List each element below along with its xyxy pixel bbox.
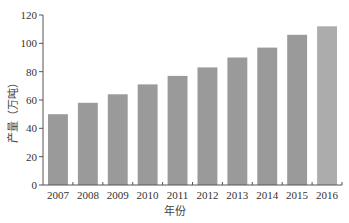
x-tick-label: 2009	[107, 189, 130, 201]
y-tick-label: 60	[26, 94, 38, 106]
x-axis: 2007200820092010201120122013201420152016	[43, 182, 342, 201]
y-tick-label: 120	[21, 9, 38, 21]
x-tick-label: 2016	[316, 189, 339, 201]
bar-2012	[198, 67, 218, 185]
bar-2014	[257, 48, 277, 185]
bar-2007	[48, 114, 68, 185]
y-tick-label: 20	[26, 151, 38, 163]
x-tick-label: 2008	[77, 189, 100, 201]
bar-2011	[168, 76, 188, 185]
bar-2016	[317, 26, 337, 185]
x-tick-label: 2013	[226, 189, 249, 201]
x-axis-title: 年份	[164, 204, 186, 218]
x-tick-label: 2014	[256, 189, 279, 201]
bar-2010	[138, 84, 158, 185]
x-tick-label: 2012	[196, 189, 218, 201]
y-axis: 020406080100120	[21, 9, 44, 191]
x-tick-label: 2010	[137, 189, 160, 201]
bars-group	[48, 26, 337, 185]
y-axis-title: 产量（万吨）	[6, 77, 20, 143]
bar-2015	[287, 35, 307, 185]
x-tick-label: 2007	[47, 189, 70, 201]
bar-chart: 020406080100120 200720082009201020112012…	[0, 0, 349, 223]
x-tick-label: 2015	[286, 189, 309, 201]
bar-2008	[78, 103, 98, 185]
bar-2009	[108, 94, 128, 185]
bar-2013	[227, 58, 247, 186]
y-tick-label: 0	[32, 179, 38, 191]
x-tick-label: 2011	[167, 189, 189, 201]
y-tick-label: 100	[21, 37, 38, 49]
y-tick-label: 40	[26, 122, 38, 134]
y-tick-label: 80	[26, 66, 38, 78]
